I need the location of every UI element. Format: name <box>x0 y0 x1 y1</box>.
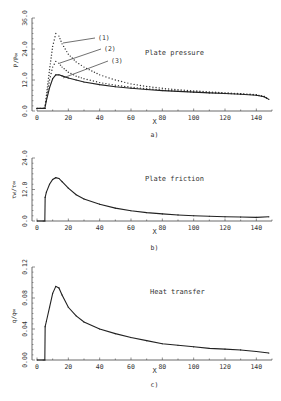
data-point <box>89 69 90 70</box>
data-point <box>48 85 49 86</box>
data-point <box>65 48 66 49</box>
x-tick-label: 120 <box>219 114 231 122</box>
y-tick-label: 0.12 <box>21 259 29 275</box>
data-point <box>68 72 69 73</box>
data-point <box>130 337 131 338</box>
data-point <box>58 63 59 64</box>
data-point <box>177 214 178 215</box>
y-tick-label: 0.00 <box>21 352 29 368</box>
x-tick-label: 40 <box>96 224 104 232</box>
data-point <box>47 80 48 81</box>
data-point <box>81 65 82 66</box>
x-tick-label: 140 <box>250 114 262 122</box>
data-point <box>193 346 194 347</box>
data-point <box>224 216 225 217</box>
data-point <box>264 96 265 97</box>
data-point <box>52 46 53 47</box>
x-axis-label: X <box>152 367 157 375</box>
data-point <box>52 293 53 294</box>
figure: 0204060801001201400.012.024.036.0P/P∞XPl… <box>0 0 281 401</box>
data-point <box>162 343 163 344</box>
data-point <box>99 328 100 329</box>
data-point <box>76 79 77 80</box>
data-point <box>51 70 52 71</box>
data-point <box>60 64 61 65</box>
data-point <box>58 35 59 36</box>
data-point <box>83 78 84 79</box>
data-point <box>268 99 269 100</box>
data-point <box>48 78 49 79</box>
x-tick-label: 120 <box>219 363 231 371</box>
data-point <box>78 76 79 77</box>
data-point <box>83 81 84 82</box>
data-point <box>54 36 55 37</box>
data-point <box>46 100 47 101</box>
data-point <box>68 77 69 78</box>
chart-heat-transfer: 0204060801001201400.000.040.080.12q/q∞XH… <box>10 259 272 389</box>
data-point <box>256 351 257 352</box>
data-point <box>99 74 100 75</box>
data-point <box>174 89 175 90</box>
data-point <box>118 80 119 81</box>
data-point <box>75 61 76 62</box>
data-point <box>48 75 49 76</box>
data-point <box>50 76 51 77</box>
data-point <box>43 220 44 221</box>
y-axis-label: q/q∞ <box>10 308 18 323</box>
data-point <box>127 86 128 87</box>
x-tick-label: 100 <box>188 224 200 232</box>
data-point <box>70 73 71 74</box>
y-tick-label: 0.0 <box>21 105 29 117</box>
annotation-leader <box>63 61 108 78</box>
chart-title: Plate friction <box>145 175 204 183</box>
data-point <box>75 75 76 76</box>
data-point <box>50 57 51 58</box>
data-point <box>45 197 46 198</box>
x-tick-label: 0 <box>35 114 39 122</box>
data-point <box>112 84 113 85</box>
data-point <box>54 64 55 65</box>
data-point <box>130 210 131 211</box>
data-point <box>68 53 69 54</box>
data-point <box>59 38 60 39</box>
x-axis-label: X <box>152 118 157 126</box>
data-point <box>61 75 62 76</box>
panel-label: b) <box>151 244 159 252</box>
data-point <box>177 91 178 92</box>
data-point <box>46 321 47 322</box>
y-tick-label: 0.0 <box>21 215 29 227</box>
data-point <box>55 286 56 287</box>
data-point <box>61 294 62 295</box>
data-point <box>240 216 241 217</box>
data-line <box>37 178 269 221</box>
data-point <box>52 179 53 180</box>
data-point <box>146 89 147 90</box>
data-point <box>66 70 67 71</box>
data-point <box>268 352 269 353</box>
data-point <box>36 220 37 221</box>
data-point <box>74 59 75 60</box>
data-point <box>115 333 116 334</box>
y-tick-label: 12.0 <box>21 72 29 88</box>
chart-plate-pressure: 0204060801001201400.012.024.036.0P/P∞XPl… <box>12 10 272 139</box>
data-point <box>94 72 95 73</box>
y-tick-label: 24.0 <box>21 41 29 57</box>
data-point <box>66 51 67 52</box>
data-point <box>162 213 163 214</box>
data-point <box>36 108 37 109</box>
y-tick-label: 0.04 <box>21 321 29 337</box>
data-point <box>48 72 49 73</box>
data-point <box>162 90 163 91</box>
data-point <box>108 83 109 84</box>
data-point <box>76 315 77 316</box>
data-point <box>240 94 241 95</box>
data-point <box>76 194 77 195</box>
data-point <box>162 88 163 89</box>
data-point <box>51 54 52 55</box>
data-line <box>37 286 269 360</box>
data-point <box>124 82 125 83</box>
data-point <box>44 359 45 360</box>
data-point <box>115 84 116 85</box>
data-point <box>108 77 109 78</box>
data-point <box>44 108 45 109</box>
